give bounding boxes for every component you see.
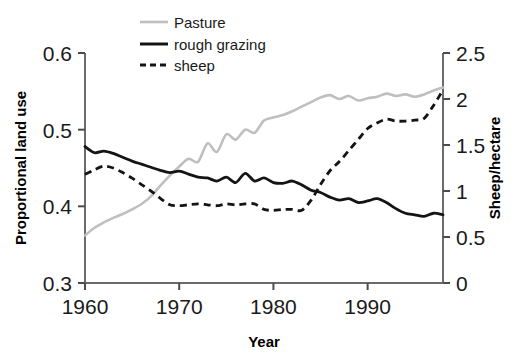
bottom-axis-ticks: 1960197019801990 bbox=[62, 283, 391, 318]
series-line-sheep bbox=[85, 90, 443, 211]
right-tick-label: 1 bbox=[456, 180, 468, 203]
left-tick-label: 0.5 bbox=[43, 119, 72, 142]
legend-item-rough-grazing: rough grazing bbox=[140, 36, 266, 53]
plot-axes bbox=[85, 53, 443, 283]
right-tick-label: 0.5 bbox=[456, 226, 485, 249]
left-axis-ticks: 0.30.40.50.6 bbox=[43, 42, 85, 295]
legend-item-sheep: sheep bbox=[140, 57, 215, 74]
legend-item-pasture: Pasture bbox=[140, 14, 226, 31]
legend-label-sheep: sheep bbox=[174, 57, 215, 74]
series-line-pasture bbox=[85, 88, 443, 236]
line-chart-svg: 0.30.40.50.6 00.511.522.5 19601970198019… bbox=[0, 0, 518, 361]
data-series-group bbox=[85, 88, 443, 236]
bottom-tick-label: 1960 bbox=[62, 295, 109, 318]
right-tick-label: 1.5 bbox=[456, 134, 485, 157]
right-tick-label: 2 bbox=[456, 88, 468, 111]
right-axis-title: Sheep/hectare bbox=[486, 117, 503, 220]
bottom-tick-label: 1990 bbox=[344, 295, 391, 318]
chart-legend: Pasture rough grazing sheep bbox=[140, 14, 266, 74]
left-tick-label: 0.6 bbox=[43, 42, 72, 65]
right-tick-label: 0 bbox=[456, 272, 468, 295]
chart-figure: 0.30.40.50.6 00.511.522.5 19601970198019… bbox=[0, 0, 518, 361]
right-axis-ticks: 00.511.522.5 bbox=[443, 42, 485, 295]
left-tick-label: 0.4 bbox=[43, 195, 73, 218]
legend-label-rough-grazing: rough grazing bbox=[174, 36, 266, 53]
bottom-tick-label: 1970 bbox=[156, 295, 203, 318]
right-tick-label: 2.5 bbox=[456, 42, 485, 65]
bottom-axis-title: Year bbox=[248, 333, 280, 350]
left-axis-title: Proportional land use bbox=[12, 91, 29, 245]
left-tick-label: 0.3 bbox=[43, 272, 72, 295]
bottom-tick-label: 1980 bbox=[250, 295, 297, 318]
legend-label-pasture: Pasture bbox=[174, 14, 226, 31]
